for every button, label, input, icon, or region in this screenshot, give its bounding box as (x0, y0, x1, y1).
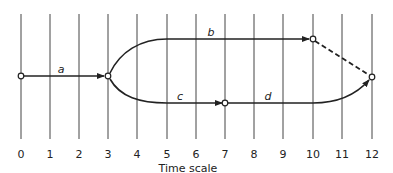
tick-label: 4 (134, 148, 141, 161)
edge-label-c: c (177, 90, 183, 103)
tick-label: 11 (335, 148, 349, 161)
tick-label: 3 (105, 148, 112, 161)
edge-d (228, 80, 369, 103)
node-3 (105, 73, 111, 79)
node-12 (369, 74, 375, 80)
tick-label: 5 (164, 148, 171, 161)
node-7 (222, 100, 228, 106)
time-axis: 0 1 2 3 4 5 6 7 8 9 10 11 12 (18, 148, 380, 161)
tick-label: 6 (193, 148, 200, 161)
network-diagram: a b c d 0 1 2 3 4 5 6 7 8 9 10 11 12 Tim… (0, 0, 393, 173)
edge-label-a: a (58, 63, 65, 76)
edge-label-b: b (208, 26, 215, 39)
tick-label: 8 (251, 148, 258, 161)
edge-c (110, 79, 222, 103)
node-0 (18, 73, 24, 79)
axis-title: Time scale (158, 162, 218, 173)
tick-label: 0 (18, 148, 25, 161)
tick-label: 7 (222, 148, 229, 161)
tick-label: 2 (76, 148, 83, 161)
tick-label: 1 (47, 148, 54, 161)
node-10 (310, 36, 316, 42)
edge-label-d: d (265, 90, 273, 103)
tick-label: 9 (280, 148, 287, 161)
tick-label: 12 (365, 148, 379, 161)
tick-label: 10 (306, 148, 320, 161)
edge-b (110, 39, 309, 73)
